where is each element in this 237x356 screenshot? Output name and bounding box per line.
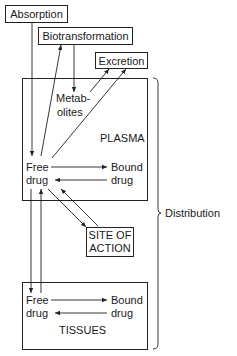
biotransformation-label: Biotransformation [39,30,132,43]
excretion-box: Excretion [95,52,148,69]
excretion-label: Excretion [96,55,147,68]
tissues-title: TISSUES [59,324,106,337]
site-of-action-line1: SITE OF [87,229,133,242]
metabolites-label-line2: olites [57,106,83,119]
plasma-free-drug-line1: Free [26,161,49,174]
distribution-label: Distribution [165,207,220,220]
plasma-title: PLASMA [100,132,145,145]
plasma-bound-drug-line2: drug [111,174,133,187]
tissue-bound-drug-line1: Bound [111,294,143,307]
biotransformation-box: Biotransformation [38,27,133,45]
tissue-free-drug-line1: Free [26,294,49,307]
tissue-bound-drug-line2: drug [111,307,133,320]
absorption-label: Absorption [6,8,67,21]
absorption-box: Absorption [5,5,68,23]
plasma-free-drug-line2: drug [26,174,48,187]
site-of-action-line2: ACTION [87,242,133,255]
plasma-bound-drug-line1: Bound [111,161,143,174]
tissue-free-drug-line2: drug [26,307,48,320]
site-of-action-box: SITE OF ACTION [86,227,134,257]
metabolites-excretion-arrow [90,69,109,92]
metabolites-label-line1: Metab- [56,92,90,105]
distribution-brace [153,78,161,349]
